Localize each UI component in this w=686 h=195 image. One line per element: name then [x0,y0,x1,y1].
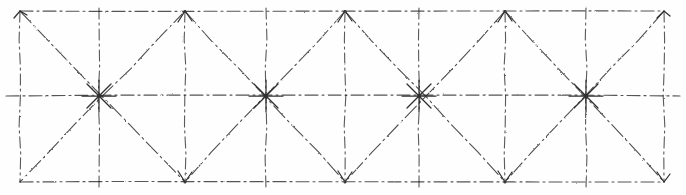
star-node-2 [249,80,283,112]
junction-dot-top-2 [344,10,347,13]
junction-dot-bot-1 [184,181,187,184]
line-h-bot [20,182,664,183]
star-node-4 [569,80,603,112]
line-h-top [20,11,664,12]
junction-dot-bot-3 [504,181,507,184]
lattice-truss-drawing [0,0,686,195]
star-node-1 [82,80,116,112]
star-node-3 [402,80,436,112]
diagram-canvas [0,0,686,195]
junction-dot-top-1 [184,10,187,13]
junction-dot-top-3 [504,10,507,13]
junction-dot-bot-2 [344,181,347,184]
